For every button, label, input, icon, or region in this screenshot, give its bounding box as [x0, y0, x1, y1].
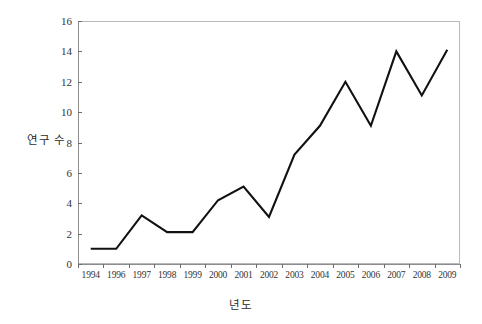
x-tick-mark: [307, 264, 308, 268]
y-tick-label: 12: [52, 76, 72, 88]
y-tick-mark: [78, 234, 82, 235]
plot-area: [78, 21, 460, 264]
x-tick-mark: [409, 264, 410, 268]
x-axis-line: [78, 264, 461, 265]
y-tick-mark: [78, 82, 82, 83]
y-tick-mark: [78, 112, 82, 113]
y-tick-mark: [78, 51, 82, 52]
x-tick-mark: [154, 264, 155, 268]
y-tick-label: 8: [52, 137, 72, 149]
y-tick-label: 2: [52, 228, 72, 240]
x-tick-mark: [282, 264, 283, 268]
y-tick-label: 6: [52, 167, 72, 179]
x-tick-label: 2009: [432, 270, 462, 280]
x-tick-mark: [129, 264, 130, 268]
y-tick-mark: [78, 21, 82, 22]
x-tick-mark: [78, 264, 79, 268]
x-tick-mark: [180, 264, 181, 268]
x-axis-title: 년도: [0, 296, 482, 312]
x-tick-mark: [460, 264, 461, 268]
y-tick-label: 10: [52, 106, 72, 118]
x-tick-mark: [205, 264, 206, 268]
x-tick-mark: [358, 264, 359, 268]
x-tick-mark: [384, 264, 385, 268]
y-tick-mark: [78, 143, 82, 144]
y-tick-label: 0: [52, 258, 72, 270]
y-tick-label: 4: [52, 197, 72, 209]
x-tick-mark: [333, 264, 334, 268]
y-tick-mark: [78, 173, 82, 174]
line-chart: 연구 수 0246810121416 199419961997199819992…: [0, 0, 482, 324]
y-tick-label: 14: [52, 45, 72, 57]
x-tick-mark: [435, 264, 436, 268]
x-tick-mark: [103, 264, 104, 268]
y-tick-mark: [78, 203, 82, 204]
y-tick-label: 16: [52, 15, 72, 27]
x-tick-mark: [231, 264, 232, 268]
x-tick-mark: [256, 264, 257, 268]
